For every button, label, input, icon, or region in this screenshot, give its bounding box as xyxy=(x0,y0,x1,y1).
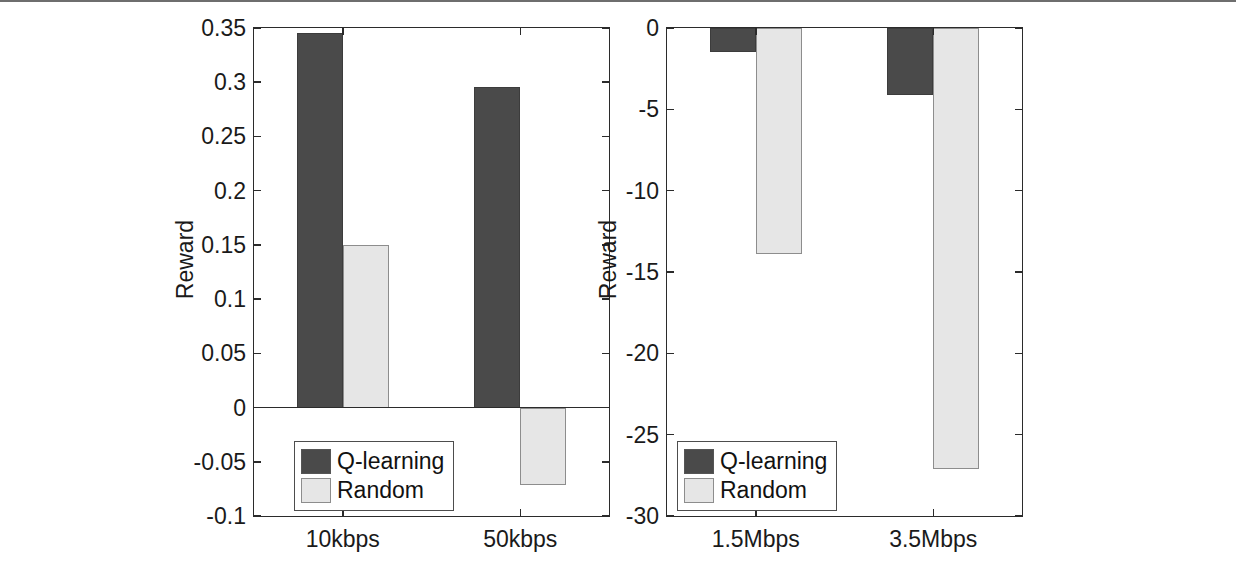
y-tick-label: 0.25 xyxy=(201,123,246,150)
y-tick-right xyxy=(1015,515,1022,517)
y-tick-right xyxy=(602,190,609,192)
x-tick xyxy=(520,509,522,516)
bar-random-3.5mbps xyxy=(933,28,979,469)
y-tick xyxy=(254,298,261,300)
y-tick xyxy=(254,244,261,246)
legend-entry-q-learning: Q-learning xyxy=(301,447,444,476)
x-tick-top xyxy=(933,28,935,35)
bar-random-50kbps xyxy=(520,408,566,485)
y-tick-label: -20 xyxy=(626,340,659,367)
y-tick-right xyxy=(1015,27,1022,29)
bar-random-10kbps xyxy=(343,245,389,408)
y-tick xyxy=(254,136,261,138)
y-tick-label: 0 xyxy=(233,394,246,421)
y-tick-label: -10 xyxy=(626,177,659,204)
y-tick-right xyxy=(1015,190,1022,192)
y-tick xyxy=(667,271,674,273)
y-tick xyxy=(254,81,261,83)
legend-left: Q-learning Random xyxy=(294,441,454,511)
y-tick-right xyxy=(602,27,609,29)
legend-entry-q-learning: Q-learning xyxy=(684,447,827,476)
legend-label-q-learning: Q-learning xyxy=(337,450,444,473)
figure-two-bar-charts: Reward 0.350.30.250.20.150.10.050-0.05-0… xyxy=(0,0,1236,568)
y-tick xyxy=(254,407,261,409)
y-tick xyxy=(667,434,674,436)
legend-entry-random: Random xyxy=(301,476,444,505)
x-tick-label: 10kbps xyxy=(306,526,380,553)
plot-area-right: 0-5-10-15-20-25-30 1.5Mbps3.5Mbps Q-lear… xyxy=(666,27,1023,517)
y-tick-label: 0.35 xyxy=(201,15,246,42)
bar-q-learning-1.5mbps xyxy=(710,28,756,52)
y-tick-right xyxy=(602,461,609,463)
chart-panel-left: Reward 0.350.30.250.20.150.10.050-0.05-0… xyxy=(0,0,620,568)
y-tick-label: -0.05 xyxy=(194,448,246,475)
y-tick-right xyxy=(1015,109,1022,111)
x-tick-label: 50kbps xyxy=(483,526,557,553)
y-tick-label: -15 xyxy=(626,259,659,286)
y-tick xyxy=(254,27,261,29)
y-tick-label: 0.1 xyxy=(214,286,246,313)
legend-entry-random: Random xyxy=(684,476,827,505)
y-tick xyxy=(254,515,261,517)
bar-random-1.5mbps xyxy=(756,28,802,254)
y-tick xyxy=(667,109,674,111)
legend-label-random: Random xyxy=(720,479,807,502)
y-tick-label: -30 xyxy=(626,503,659,530)
y-axis-title-left: Reward xyxy=(172,200,199,320)
x-tick-label: 3.5Mbps xyxy=(889,526,977,553)
y-tick xyxy=(667,190,674,192)
y-tick-right xyxy=(602,407,609,409)
y-tick-right xyxy=(602,81,609,83)
zero-baseline-left xyxy=(254,407,609,409)
y-tick xyxy=(254,461,261,463)
x-tick-label: 1.5Mbps xyxy=(712,526,800,553)
y-tick-right xyxy=(1015,271,1022,273)
y-tick-right xyxy=(602,136,609,138)
y-tick-right xyxy=(602,353,609,355)
x-tick-top xyxy=(342,28,344,35)
bar-q-learning-50kbps xyxy=(474,87,520,408)
y-axis-title-right: Reward xyxy=(595,200,622,320)
y-tick-right xyxy=(602,515,609,517)
y-tick-label: 0 xyxy=(646,15,659,42)
y-tick-label: -5 xyxy=(639,96,659,123)
y-tick-label: 0.3 xyxy=(214,69,246,96)
chart-panel-right: Reward 0-5-10-15-20-25-30 1.5Mbps3.5Mbps… xyxy=(616,0,1236,568)
y-tick xyxy=(254,353,261,355)
x-tick-top xyxy=(755,28,757,35)
plot-area-left: 0.350.30.250.20.150.10.050-0.05-0.1 10kb… xyxy=(253,27,610,517)
legend-swatch-q-learning xyxy=(301,449,331,474)
legend-swatch-random xyxy=(684,478,714,503)
y-tick-label: 0.05 xyxy=(201,340,246,367)
legend-swatch-q-learning xyxy=(684,449,714,474)
y-tick-label: -25 xyxy=(626,421,659,448)
legend-label-q-learning: Q-learning xyxy=(720,450,827,473)
legend-swatch-random xyxy=(301,478,331,503)
x-tick-top xyxy=(520,28,522,35)
y-tick xyxy=(667,515,674,517)
legend-right: Q-learning Random xyxy=(677,441,837,511)
legend-label-random: Random xyxy=(337,479,424,502)
y-tick-right xyxy=(1015,434,1022,436)
y-tick-label: -0.1 xyxy=(206,503,246,530)
x-tick xyxy=(933,509,935,516)
y-tick-label: 0.15 xyxy=(201,231,246,258)
y-tick xyxy=(254,190,261,192)
y-tick xyxy=(667,27,674,29)
bar-q-learning-10kbps xyxy=(297,33,343,407)
y-tick-right xyxy=(1015,353,1022,355)
y-tick-label: 0.2 xyxy=(214,177,246,204)
bar-q-learning-3.5mbps xyxy=(887,28,933,95)
y-tick xyxy=(667,353,674,355)
